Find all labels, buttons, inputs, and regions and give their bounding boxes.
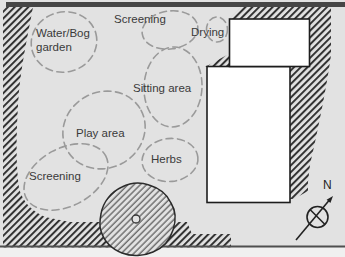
area-label-herbs: Herbs bbox=[151, 152, 182, 166]
plan-top-border bbox=[6, 2, 345, 7]
building-small bbox=[230, 19, 310, 67]
area-label-drying: Drying bbox=[191, 25, 224, 39]
area-label-screening-top: Screening bbox=[114, 12, 166, 26]
water-bog-line2: garden bbox=[36, 40, 90, 54]
garden-plan-diagram: Water/Bog garden Screening Drying Sittin… bbox=[0, 0, 345, 257]
tree-canopy-icon bbox=[100, 183, 175, 255]
area-label-water-bog-garden: Water/Bog garden bbox=[36, 26, 90, 54]
tree-trunk-dot bbox=[132, 215, 140, 223]
compass-north-arrow-icon bbox=[296, 196, 333, 240]
plan-bottom-border bbox=[0, 246, 345, 248]
hatched-shadow-notch bbox=[205, 55, 229, 67]
below-plan-strip bbox=[0, 248, 345, 257]
area-label-play-area: Play area bbox=[76, 126, 125, 140]
north-label: N bbox=[323, 178, 332, 192]
water-bog-line1: Water/Bog bbox=[36, 26, 90, 40]
area-label-screening-bottom: Screening bbox=[29, 169, 81, 183]
building-large bbox=[207, 67, 290, 203]
area-label-sitting-area: Sitting area bbox=[133, 81, 191, 95]
